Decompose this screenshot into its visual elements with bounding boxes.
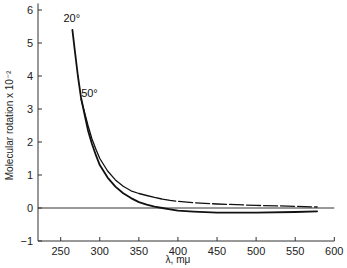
x-tick-label: 250: [51, 245, 69, 257]
y-tick-label: 4: [27, 70, 33, 82]
curve-labels: 20°50°: [63, 12, 97, 100]
axes: [38, 3, 334, 241]
x-tick-label: 600: [325, 245, 343, 257]
y-tick-label: 6: [27, 4, 33, 16]
x-tick-label: 500: [247, 245, 265, 257]
y-axis-title: Molecular rotation x 10⁻²: [4, 70, 15, 180]
series-line-50deg: [81, 99, 317, 207]
ticks: −10123456250300350400450500550600: [20, 4, 343, 257]
y-tick-label: 1: [27, 169, 33, 181]
x-tick-label: 350: [130, 245, 148, 257]
y-tick-label: 2: [27, 136, 33, 148]
x-tick-label: 450: [208, 245, 226, 257]
optical-rotation-chart: −10123456250300350400450500550600 20°50°…: [0, 0, 347, 268]
curve-label-0: 20°: [63, 12, 80, 24]
series-line-20deg: [72, 30, 317, 213]
x-axis-title: λ, mμ: [166, 254, 191, 265]
y-tick-label: −1: [20, 235, 33, 247]
y-tick-label: 5: [27, 37, 33, 49]
series-group: [72, 30, 317, 213]
curve-label-1: 50°: [81, 87, 98, 99]
x-tick-label: 550: [286, 245, 304, 257]
y-tick-label: 3: [27, 103, 33, 115]
y-tick-label: 0: [27, 202, 33, 214]
x-tick-label: 300: [91, 245, 109, 257]
